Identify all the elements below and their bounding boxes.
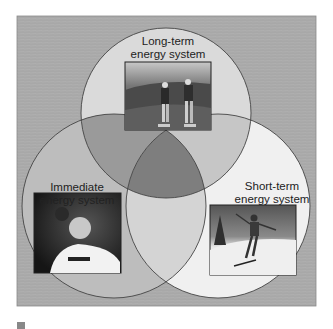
photo-roller-skaters xyxy=(125,62,211,130)
label-long-term: Long-term energy system xyxy=(126,35,210,61)
photo-skier xyxy=(210,205,296,275)
venn-figure: Long-term energy system Immediate energy… xyxy=(0,0,333,329)
figure-caption-fragment xyxy=(17,316,57,326)
label-short-term: Short-term energy system xyxy=(227,180,317,206)
label-immediate: Immediate energy system xyxy=(33,181,121,207)
